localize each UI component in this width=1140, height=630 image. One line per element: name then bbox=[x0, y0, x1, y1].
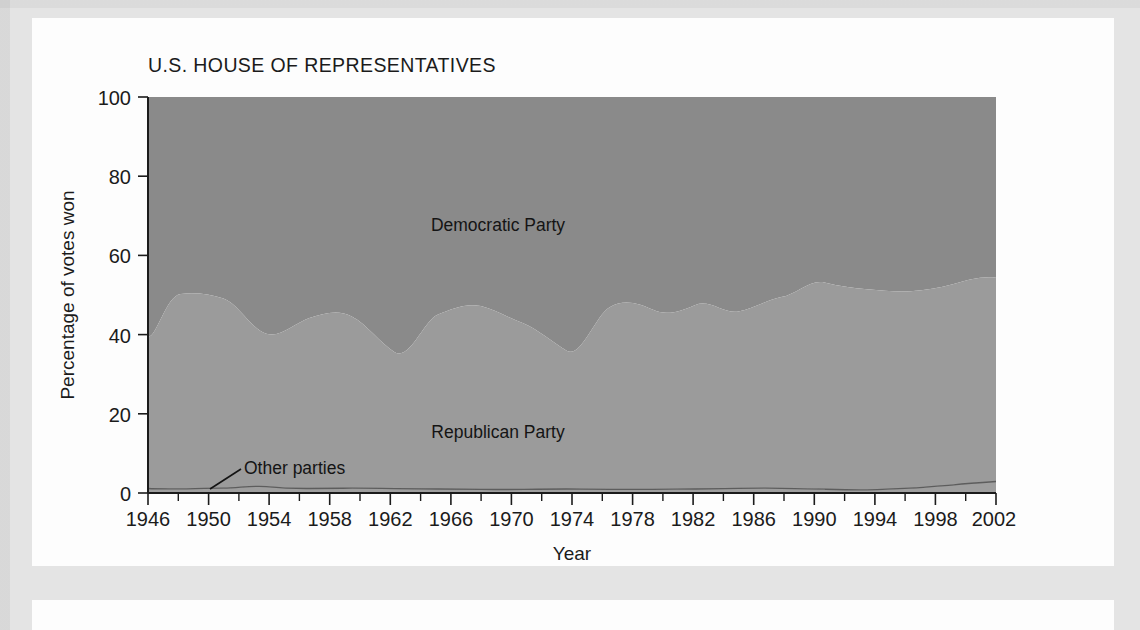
page-background: U.S. HOUSE OF REPRESENTATIVES bbox=[0, 0, 1140, 630]
figure-panel-lower bbox=[32, 600, 1114, 630]
x-tick-1998: 1998 bbox=[913, 508, 958, 530]
x-tick-1994: 1994 bbox=[853, 508, 898, 530]
y-tick-60: 60 bbox=[109, 245, 131, 267]
series-label-other-parties: Other parties bbox=[244, 458, 345, 478]
x-tick-1958: 1958 bbox=[307, 508, 352, 530]
y-axis-title: Percentage of votes won bbox=[57, 190, 78, 399]
x-axis-ticks bbox=[148, 493, 996, 505]
figure-panel: U.S. HOUSE OF REPRESENTATIVES bbox=[32, 18, 1114, 566]
x-tick-1966: 1966 bbox=[429, 508, 474, 530]
x-tick-1982: 1982 bbox=[671, 508, 716, 530]
x-tick-1962: 1962 bbox=[368, 508, 413, 530]
x-tick-1990: 1990 bbox=[792, 508, 837, 530]
x-tick-1950: 1950 bbox=[186, 508, 231, 530]
y-axis-ticks bbox=[138, 97, 148, 493]
x-tick-1974: 1974 bbox=[550, 508, 595, 530]
area-series-group bbox=[148, 97, 996, 493]
stacked-area-chart: 100 80 60 40 20 0 bbox=[32, 18, 1114, 566]
x-axis-tick-labels: 1946 1950 1954 1958 1962 1966 1970 1974 … bbox=[126, 508, 1017, 530]
x-tick-1986: 1986 bbox=[731, 508, 776, 530]
x-tick-1978: 1978 bbox=[610, 508, 655, 530]
y-tick-20: 20 bbox=[109, 404, 131, 426]
x-axis-title: Year bbox=[553, 543, 592, 564]
chart-plot-area: 100 80 60 40 20 0 bbox=[32, 18, 1114, 566]
x-tick-2002: 2002 bbox=[972, 508, 1017, 530]
y-tick-80: 80 bbox=[109, 166, 131, 188]
x-tick-1970: 1970 bbox=[489, 508, 534, 530]
y-tick-100: 100 bbox=[98, 87, 131, 109]
y-axis-tick-labels: 100 80 60 40 20 0 bbox=[98, 87, 131, 505]
x-tick-1954: 1954 bbox=[247, 508, 292, 530]
x-tick-1946: 1946 bbox=[126, 508, 171, 530]
y-tick-40: 40 bbox=[109, 325, 131, 347]
y-tick-0: 0 bbox=[120, 483, 131, 505]
series-label-republican-party: Republican Party bbox=[431, 422, 565, 442]
series-label-democratic-party: Democratic Party bbox=[431, 215, 565, 235]
